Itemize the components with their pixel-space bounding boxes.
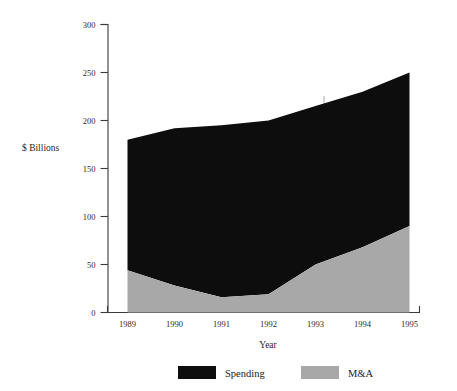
y-axis-title: $ Billions: [22, 143, 60, 153]
x-axis-tick-label: 1990: [166, 319, 183, 329]
legend-label-ma: M&A: [348, 368, 374, 379]
x-axis-tick-label: 1989: [119, 319, 136, 329]
x-axis-tick-label: 1994: [354, 319, 372, 329]
y-axis-tick-label: 150: [83, 164, 96, 174]
x-axis-tick-labels: 1989199019911992199319941995: [119, 319, 418, 329]
y-axis-tick-label: 100: [83, 212, 96, 222]
x-axis-tick-label: 1995: [401, 319, 418, 329]
legend-label-spending: Spending: [225, 368, 265, 379]
x-axis-tick-label: 1993: [307, 319, 324, 329]
y-axis-tick-label: 0: [91, 308, 95, 318]
chart-areas: [128, 73, 410, 313]
x-axis-tick-label: 1992: [260, 319, 277, 329]
y-axis-tick-label: 200: [83, 116, 96, 126]
y-axis-tick-label: 50: [87, 260, 96, 270]
x-axis-title: Year: [259, 340, 277, 350]
stacked-area-chart: $ Billions 050100150200250300 1989199019…: [0, 0, 457, 391]
x-axis-tick-label: 1991: [213, 319, 230, 329]
legend-swatch-spending: [178, 366, 216, 379]
chart-legend: SpendingM&A: [178, 366, 374, 379]
y-axis-tick-label: 250: [83, 68, 96, 78]
legend-swatch-ma: [301, 366, 339, 379]
y-axis: 050100150200250300: [83, 20, 108, 318]
chart-figure: $ Billions 050100150200250300 1989199019…: [0, 0, 457, 391]
y-axis-tick-label: 300: [83, 20, 96, 30]
